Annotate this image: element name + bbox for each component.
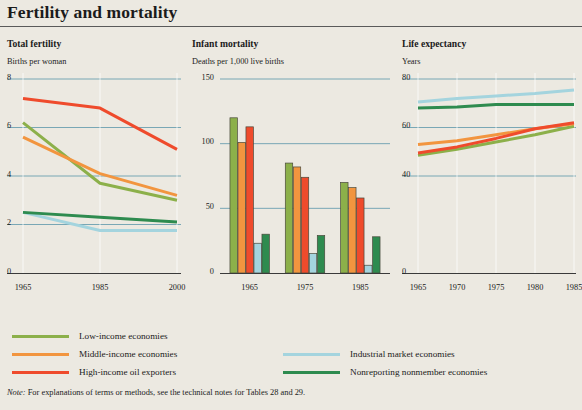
legend-label: Industrial market economies (350, 348, 455, 361)
x-axis-tick-label: 1965 (241, 283, 258, 292)
x-axis-tick-label: 2000 (169, 283, 186, 292)
bar-low-income (341, 182, 348, 273)
x-axis-labels-life-expectancy: 19651970197519801985 (402, 281, 578, 295)
bar-nonreporting (373, 237, 380, 273)
y-axis-tick-label: 80 (402, 73, 410, 82)
bar-middle-income (293, 167, 300, 273)
page-title: Fertility and mortality (7, 2, 177, 23)
y-axis-tick-label: 2 (7, 218, 11, 227)
bar-nonreporting (262, 234, 269, 273)
x-axis-tick-label: 1985 (92, 283, 109, 292)
legend-swatch-industrial (283, 353, 340, 356)
line-chart-svg-life-expectancy (402, 69, 578, 281)
x-axis-labels-total-fertility: 196519852000 (7, 281, 183, 295)
bar-middle-income (238, 142, 245, 273)
x-axis-tick-label: 1985 (566, 283, 582, 292)
figure-note-prefix: Note: (7, 388, 26, 397)
chart-unit-infant-mortality: Deaths per 1,000 live births (192, 56, 392, 67)
y-axis-tick-label: 60 (402, 121, 410, 130)
bar-industrial (254, 243, 261, 273)
figure-note-text: For explanations of terms or methods, se… (26, 388, 306, 397)
legend-label: Middle-income economies (79, 348, 177, 361)
bar-nonreporting (317, 235, 324, 273)
figure-page: Fertility and mortality Total fertility … (0, 0, 582, 410)
x-axis-tick-label: 1965 (410, 283, 427, 292)
bar-industrial (365, 265, 372, 273)
chart-title-life-expectancy: Life expectancy (402, 38, 578, 50)
plot-area-infant-mortality: 050100150 (192, 69, 392, 281)
title-divider (0, 26, 582, 27)
plot-area-life-expectancy: 0406080 (402, 69, 578, 281)
legend-swatch-high-income-oil (12, 371, 69, 374)
legend-label: High-income oil exporters (79, 366, 176, 379)
bar-industrial (309, 254, 316, 273)
plot-area-total-fertility: 02468 (7, 69, 183, 281)
x-axis-tick-label: 1975 (297, 283, 314, 292)
chart-panel-total-fertility: Total fertility Births per woman 02468 1… (7, 38, 183, 295)
bar-high-income-oil (357, 198, 364, 273)
x-axis-tick-label: 1965 (15, 283, 32, 292)
legend-swatch-nonreporting (283, 371, 340, 374)
bar-middle-income (349, 188, 356, 273)
legend-swatch-low-income (12, 335, 69, 338)
bar-chart-svg-infant-mortality (192, 69, 392, 281)
chart-panel-life-expectancy: Life expectancy Years 0406080 1965197019… (402, 38, 578, 295)
y-axis-tick-label: 50 (206, 202, 214, 211)
x-axis-tick-label: 1975 (488, 283, 505, 292)
y-axis-tick-label: 40 (402, 170, 410, 179)
y-axis-tick-label: 0 (7, 267, 11, 276)
y-axis-tick-label: 100 (202, 137, 214, 146)
legend-label: Low-income economies (79, 330, 168, 343)
y-axis-tick-label: 0 (402, 267, 406, 276)
x-axis-tick-label: 1970 (449, 283, 466, 292)
chart-title-infant-mortality: Infant mortality (192, 38, 392, 50)
chart-unit-total-fertility: Births per woman (7, 56, 183, 67)
y-axis-tick-label: 4 (7, 170, 11, 179)
x-axis-tick-label: 1985 (352, 283, 369, 292)
y-axis-tick-label: 6 (7, 121, 11, 130)
y-axis-tick-label: 8 (7, 73, 11, 82)
line-chart-svg-total-fertility (7, 69, 183, 281)
figure-note: Note: For explanations of terms or metho… (7, 388, 305, 397)
y-axis-tick-label: 150 (202, 73, 214, 82)
x-axis-labels-infant-mortality: 196519751985 (192, 281, 392, 295)
chart-title-total-fertility: Total fertility (7, 38, 183, 50)
bar-low-income (285, 163, 292, 273)
bar-high-income-oil (246, 127, 253, 273)
legend-label: Nonreporting nonmember economies (350, 366, 487, 379)
y-axis-tick-label: 0 (210, 267, 214, 276)
bar-high-income-oil (301, 177, 308, 273)
chart-panel-infant-mortality: Infant mortality Deaths per 1,000 live b… (192, 38, 392, 295)
legend: Low-income economiesMiddle-income econom… (0, 330, 582, 380)
bar-low-income (230, 118, 237, 273)
x-axis-tick-label: 1980 (527, 283, 544, 292)
legend-swatch-middle-income (12, 353, 69, 356)
chart-unit-life-expectancy: Years (402, 56, 578, 67)
